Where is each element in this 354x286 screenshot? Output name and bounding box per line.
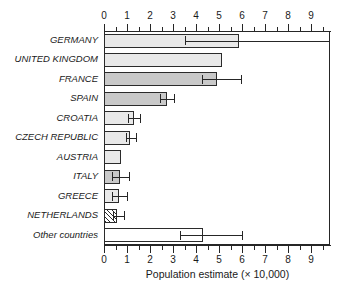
category-label-greece: GREECE [0,190,98,201]
error-bar [160,99,174,100]
error-bar [126,138,136,139]
chart-row: GERMANY [0,31,354,50]
error-bar [112,196,127,197]
error-bar [185,41,330,42]
error-cap-low [113,211,114,220]
tick-major-9 [311,246,312,253]
tick-minor [162,246,163,250]
category-label-italy: ITALY [0,170,98,181]
tick-minor [254,246,255,250]
tick-label-top-7: 7 [255,11,275,21]
error-bar [112,177,129,178]
tick-minor [116,246,117,250]
tick-major-9 [311,24,312,31]
tick-label-top-4: 4 [186,11,206,21]
error-cap-low [160,94,161,103]
tick-minor [139,246,140,250]
chart-row: GREECE [0,187,354,206]
chart-row: ITALY [0,167,354,186]
error-bar [128,118,140,119]
tick-minor [277,246,278,250]
category-label-croatia: CROATIA [0,112,98,123]
category-label-germany: GERMANY [0,34,98,45]
chart-row: NETHERLANDS [0,206,354,225]
tick-label-top-0: 0 [94,11,114,21]
chart-row: SPAIN [0,89,354,108]
chart-row: UNITED KINGDOM [0,50,354,69]
bar-france [104,72,217,86]
tick-label-bottom-1: 1 [117,255,137,265]
tick-major-8 [288,24,289,31]
error-cap-high [174,94,175,103]
tick-label-top-5: 5 [209,11,229,21]
error-cap-low [112,172,113,181]
error-cap-low [202,75,203,84]
error-bar [113,216,123,217]
chart-row: AUSTRIA [0,148,354,167]
error-cap-high [124,211,125,220]
tick-label-top-8: 8 [278,11,298,21]
tick-minor [231,246,232,250]
tick-major-2 [150,246,151,253]
error-cap-low [180,231,181,240]
tick-label-bottom-2: 2 [140,255,160,265]
tick-label-top-6: 6 [232,11,252,21]
category-label-united-kingdom: UNITED KINGDOM [0,53,98,64]
tick-minor [323,246,324,250]
tick-major-0 [104,246,105,253]
error-cap-high [136,133,137,142]
tick-label-bottom-4: 4 [186,255,206,265]
error-cap-high [242,231,243,240]
tick-major-1 [127,24,128,31]
tick-major-2 [150,24,151,31]
bar-united-kingdom [104,53,222,67]
tick-label-bottom-5: 5 [209,255,229,265]
tick-label-top-9: 9 [301,11,321,21]
tick-major-4 [196,246,197,253]
tick-label-bottom-9: 9 [301,255,321,265]
tick-label-bottom-0: 0 [94,255,114,265]
error-bar [180,235,242,236]
error-cap-low [126,133,127,142]
tick-major-5 [219,24,220,31]
error-cap-high [140,114,141,123]
chart-row: CZECH REPUBLIC [0,128,354,147]
category-label-france: FRANCE [0,73,98,84]
error-cap-high [241,75,242,84]
population-bar-chart: 00112233445566778899 GERMANYUNITED KINGD… [0,0,354,286]
tick-major-7 [265,246,266,253]
tick-minor [300,246,301,250]
tick-major-0 [104,24,105,31]
tick-major-6 [242,24,243,31]
chart-row: FRANCE [0,70,354,89]
error-cap-low [112,192,113,201]
tick-label-top-3: 3 [163,11,183,21]
tick-label-bottom-3: 3 [163,255,183,265]
bar-spain [104,92,167,106]
category-label-netherlands: NETHERLANDS [0,209,98,220]
error-cap-high [127,192,128,201]
tick-major-7 [265,24,266,31]
tick-major-5 [219,246,220,253]
tick-major-8 [288,246,289,253]
category-label-austria: AUSTRIA [0,151,98,162]
chart-row: Other countries [0,226,354,245]
category-label-other-countries: Other countries [0,229,98,240]
error-cap-low [128,114,129,123]
tick-label-top-1: 1 [117,11,137,21]
chart-row: CROATIA [0,109,354,128]
error-bar [202,79,241,80]
tick-label-top-2: 2 [140,11,160,21]
tick-major-4 [196,24,197,31]
tick-major-3 [173,246,174,253]
error-cap-low [185,36,186,45]
tick-major-3 [173,24,174,31]
tick-label-bottom-8: 8 [278,255,298,265]
category-label-spain: SPAIN [0,92,98,103]
tick-label-bottom-7: 7 [255,255,275,265]
x-axis-title: Population estimate (× 10,000) [104,268,331,280]
tick-label-bottom-6: 6 [232,255,252,265]
tick-major-1 [127,246,128,253]
tick-minor [208,246,209,250]
tick-major-6 [242,246,243,253]
